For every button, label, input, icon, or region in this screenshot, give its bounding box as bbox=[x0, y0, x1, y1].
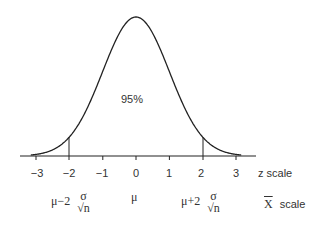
lower-xbar-label: μ−2 σ √n bbox=[51, 190, 90, 214]
normal-curve bbox=[31, 17, 241, 155]
sqrt-symbol: √ bbox=[207, 201, 214, 215]
n: n bbox=[214, 201, 220, 215]
z-tick-label: −3 bbox=[31, 167, 44, 179]
axis-ticks bbox=[36, 156, 236, 160]
upper-xbar-label: μ+2 σ √n bbox=[181, 190, 220, 214]
z-tick-label: −2 bbox=[63, 167, 76, 179]
z-tick-label: 3 bbox=[233, 167, 239, 179]
z-tick-label: 0 bbox=[133, 167, 139, 179]
normal-curve-plot bbox=[0, 0, 319, 227]
xbar-scale-word: scale bbox=[280, 198, 306, 210]
z-scale-label: z scale bbox=[258, 167, 292, 179]
upper-prefix: μ+2 bbox=[181, 194, 200, 208]
sqrt-symbol: √ bbox=[77, 201, 84, 215]
n: n bbox=[84, 201, 90, 215]
mu-label: μ bbox=[131, 190, 137, 205]
z-tick-label: −1 bbox=[96, 167, 109, 179]
xbar-symbol: X bbox=[264, 197, 273, 211]
z-tick-label: 1 bbox=[166, 167, 172, 179]
lower-prefix: μ−2 bbox=[51, 194, 70, 208]
sigma-over-root-n: σ √n bbox=[207, 190, 220, 214]
xbar-scale-label: X scale bbox=[264, 197, 305, 212]
area-label: 95% bbox=[121, 93, 143, 105]
sigma-over-root-n: σ √n bbox=[77, 190, 90, 214]
z-tick-label: 2 bbox=[198, 167, 204, 179]
